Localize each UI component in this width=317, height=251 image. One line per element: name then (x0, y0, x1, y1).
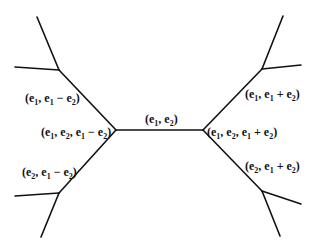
label-upper-left-edge: (e1, e1 − e2) (e1,e1−e2) (25, 91, 80, 105)
edge-line (15, 193, 59, 196)
edge-line (37, 17, 59, 70)
edge-line (262, 16, 283, 69)
label-lower-right-edge: (e2, e1 + e2) (e2,e1+e2) (245, 159, 300, 173)
label-right-vertex: (e1, e2, e1 + e2) (e1,e2,e1+e2) (207, 125, 277, 139)
edge-line (262, 191, 280, 236)
label-upper-right-edge: (e1, e1 + e2) (e1,e1+e2) (245, 87, 300, 101)
edge-line (41, 193, 59, 237)
label-center-edge: (e1, e2) (e1,e2) (145, 112, 178, 126)
label-lower-left-edge: (e2, e1 − e2) (e2,e1−e2) (22, 165, 77, 179)
label-left-vertex: (e1, e2, e1 − e2) (e1,e2,e1−e2) (41, 125, 111, 139)
tree-diagram: (e1, e2) (e1,e2) (e1, e1 − e2) (e1,e1−e2… (0, 0, 317, 251)
edge-line (15, 67, 59, 70)
edge-line (262, 65, 301, 69)
edge-line (262, 191, 301, 204)
